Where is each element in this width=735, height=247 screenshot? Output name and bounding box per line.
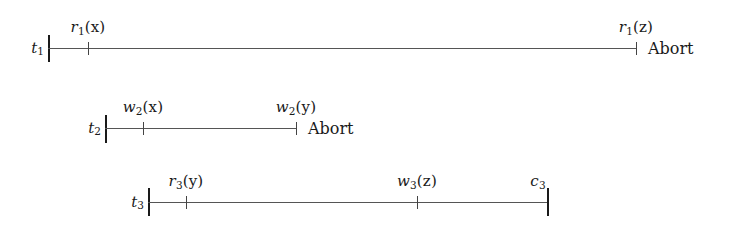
operation-tick-w3z [417, 196, 418, 209]
operation-label-c3: c3 [530, 172, 545, 191]
operation-tick-r1x [88, 42, 89, 55]
commit-bar-c3 [547, 188, 549, 216]
op-w2y-base: w [276, 98, 289, 116]
operation-label-w2x: w2(x) [123, 98, 164, 117]
operation-label-w2y: w2(y) [276, 98, 317, 117]
op-w3z-subscript: 3 [410, 179, 417, 191]
time-axis-t2 [105, 128, 296, 129]
op-r1x-argument: (x) [85, 18, 106, 36]
op-w3z-base: w [397, 172, 410, 190]
op-w2x-subscript: 2 [136, 105, 143, 117]
op-w2y-subscript: 2 [289, 105, 296, 117]
transaction-label-t1-subscript: 1 [37, 45, 44, 57]
time-axis-t1 [48, 48, 636, 49]
operation-label-w3z: w3(z) [397, 172, 437, 191]
time-axis-t3 [148, 202, 547, 203]
transaction-timeline-figure: t1 r1(x) r1(z) Abort t2 w2(x) w2(y) Abor… [0, 0, 735, 247]
operation-label-r1z: r1(z) [619, 18, 653, 37]
transaction-label-t2-subscript: 2 [94, 125, 101, 137]
op-r3y-argument: (y) [183, 172, 204, 190]
terminal-status-t1: Abort [648, 39, 694, 58]
op-c3-subscript: 3 [539, 179, 546, 191]
operation-tick-r3y [186, 196, 187, 209]
transaction-label-t1: t1 [31, 39, 44, 58]
op-w2x-base: w [123, 98, 136, 116]
operation-tick-r1z [636, 42, 637, 55]
operation-label-r3y: r3(y) [169, 172, 204, 191]
operation-tick-w2y [296, 122, 297, 135]
transaction-label-t3-subscript: 3 [137, 199, 144, 211]
op-w3z-argument: (z) [417, 172, 437, 190]
operation-tick-w2x [143, 122, 144, 135]
op-w2x-argument: (x) [142, 98, 163, 116]
op-c3-base: c [530, 172, 539, 190]
terminal-status-t2: Abort [308, 119, 354, 138]
op-r1z-argument: (z) [633, 18, 653, 36]
operation-label-r1x: r1(x) [71, 18, 106, 37]
begin-bar-t2 [105, 115, 107, 143]
transaction-label-t3: t3 [131, 193, 144, 212]
op-w2y-argument: (y) [295, 98, 316, 116]
transaction-label-t2: t2 [88, 119, 101, 138]
